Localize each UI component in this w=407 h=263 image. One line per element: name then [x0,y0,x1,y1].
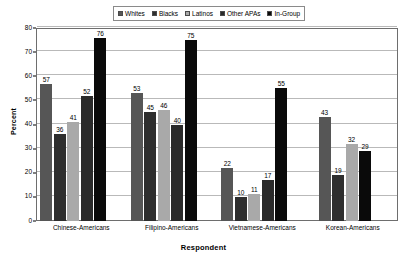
bar-value-label: 52 [78,88,96,95]
bar [94,38,106,221]
y-axis-tick-label: 40 [2,121,32,128]
bar-value-label: 11 [245,186,263,193]
bar-group: 5345464075 [127,28,218,221]
bar-value-label: 19 [329,167,347,174]
bar [359,151,371,221]
y-axis-tick-label: 80 [2,25,32,32]
y-axis-tick-label: 60 [2,73,32,80]
legend-item: In-Group [267,10,300,17]
y-axis-tick-label: 30 [2,145,32,152]
bar-value-label: 75 [182,32,200,39]
bar-group: 2210111755 [217,28,308,221]
bars-layer: 57364152765345464075221011175543193229 [36,28,398,221]
bar [144,112,156,221]
bar-group: 43193229 [308,28,399,221]
legend-item-label: Whites [125,10,145,17]
legend-item: Blacks [152,10,178,17]
y-axis-tick-label: 20 [2,170,32,177]
y-axis-tick-label: 50 [2,97,32,104]
bar-value-label: 53 [128,85,146,92]
y-axis-tick-label: 0 [2,218,32,225]
x-axis-tick-label: Vietnamese-Americans [217,224,308,232]
bar-value-label: 55 [272,80,290,87]
y-axis-tick-labels: 01020304050607080 [0,28,36,221]
bar [248,194,260,221]
bar-value-label: 36 [51,126,69,133]
bar-value-label: 40 [168,117,186,124]
bar [171,125,183,222]
bar-group: 5736415276 [36,28,127,221]
bar [158,110,170,221]
legend-swatch-icon [118,11,123,16]
bar-value-label: 17 [259,172,277,179]
bar-chart-figure: WhitesBlacksLatinosOther APAsIn-Group Pe… [0,0,407,263]
legend-item-label: Other APAs [227,10,260,17]
bar-value-label: 32 [343,136,361,143]
x-axis-tick-label: Filipino-Americans [127,224,218,232]
legend-swatch-icon [267,11,272,16]
x-axis-tick-labels: Chinese-AmericansFilipino-AmericansVietn… [36,224,398,238]
x-axis-tick-label: Chinese-Americans [36,224,127,232]
bar-value-label: 43 [316,109,334,116]
bar [346,144,358,221]
legend-item-label: In-Group [274,10,300,17]
legend-item: Latinos [185,10,213,17]
bar [275,88,287,221]
legend-item-label: Blacks [159,10,178,17]
legend-swatch-icon [185,11,190,16]
bar [262,180,274,221]
bar [332,175,344,221]
bar [67,122,79,221]
bar-value-label: 22 [218,160,236,167]
legend-swatch-icon [220,11,225,16]
legend-swatch-icon [152,11,157,16]
bar-value-label: 29 [356,143,374,150]
legend-item: Other APAs [220,10,260,17]
y-axis-tick-label: 70 [2,49,32,56]
y-axis-tick-label: 10 [2,194,32,201]
bar [185,40,197,221]
legend-item: Whites [118,10,145,17]
bar-value-label: 46 [155,102,173,109]
gridline [37,26,397,27]
bar [131,93,143,221]
bar [54,134,66,221]
bar [235,197,247,221]
bar [81,96,93,221]
x-axis-title: Respondent [0,243,407,252]
x-axis-tick-label: Korean-Americans [308,224,399,232]
bar-value-label: 76 [91,30,109,37]
bar-value-label: 41 [64,114,82,121]
bar [40,84,52,222]
chart-legend: WhitesBlacksLatinosOther APAsIn-Group [113,6,305,21]
legend-item-label: Latinos [192,10,213,17]
bar-value-label: 57 [37,76,55,83]
